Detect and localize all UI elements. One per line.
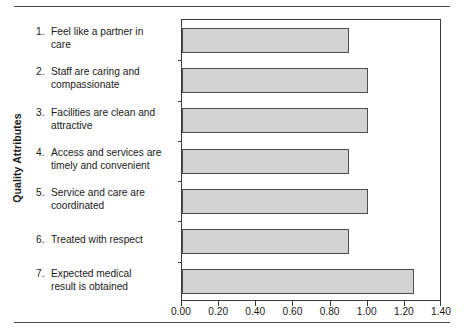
x-axis-tick-label: 0.60 [272,306,312,317]
bar [182,269,414,294]
bar [182,68,368,93]
y-axis-tick [178,101,182,102]
bar [182,28,349,53]
category-text: Service and care arecoordinated [51,186,184,212]
bar-chart-figure: Quality Attributes 1.Feel like a partner… [0,0,464,336]
y-axis-tick [178,221,182,222]
bar [182,189,368,214]
bar [182,108,368,133]
category-label: 4.Access and services aretimely and conv… [36,146,184,172]
y-axis-tick [178,181,182,182]
x-axis-tick-label: 1.20 [384,306,424,317]
category-label: 1.Feel like a partner incare [36,25,184,51]
category-number: 1. [36,25,51,38]
bottom-divider-rule [14,322,450,323]
x-axis-tick-label: 0.40 [235,306,275,317]
category-text: Treated with respect [51,233,184,246]
bar [182,229,349,254]
x-axis-tick-label: 0.80 [310,306,350,317]
category-number: 6. [36,233,51,246]
bar [182,149,349,174]
x-axis-tick-labels: 0.000.200.400.600.801.001.201.40 [181,306,441,320]
category-text: Expected medicalresult is obtained [51,267,184,293]
y-axis-tick [178,141,182,142]
category-label: 2.Staff are caring andcompassionate [36,65,184,91]
plot-area [181,19,441,301]
x-axis-tick-label: 0.00 [161,306,201,317]
category-number: 2. [36,65,51,78]
category-number: 3. [36,106,51,119]
y-axis-tick [178,262,182,263]
category-label: 7.Expected medicalresult is obtained [36,267,184,293]
category-text: Access and services aretimely and conven… [51,146,184,172]
category-number: 5. [36,186,51,199]
category-number: 4. [36,146,51,159]
category-label-column: 1.Feel like a partner incare2.Staff are … [36,19,181,301]
y-axis-title: Quality Attributes [11,83,23,233]
top-divider-rule [14,6,450,7]
y-axis-tick [178,60,182,61]
category-label: 6.Treated with respect [36,233,184,246]
category-text: Staff are caring andcompassionate [51,65,184,91]
category-number: 7. [36,267,51,280]
x-axis-tick-label: 1.00 [347,306,387,317]
x-axis-tick-label: 0.20 [198,306,238,317]
x-axis-tick-label: 1.40 [421,306,461,317]
category-label: 5.Service and care arecoordinated [36,186,184,212]
category-label: 3.Facilities are clean andattractive [36,106,184,132]
category-text: Feel like a partner incare [51,25,184,51]
category-text: Facilities are clean andattractive [51,106,184,132]
